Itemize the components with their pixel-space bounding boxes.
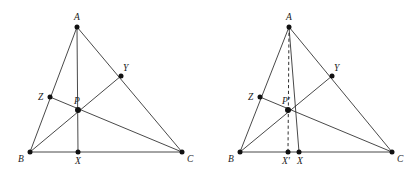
- point-label-y: Y: [123, 64, 128, 74]
- point-label-y: Y: [334, 64, 339, 74]
- point-dot-y: [119, 74, 124, 79]
- point-label-a: A: [286, 13, 292, 23]
- point-label-b: B: [228, 155, 234, 165]
- point-dot-b: [28, 150, 33, 155]
- point-label-a: A: [74, 13, 80, 23]
- point-label-p: P': [282, 97, 290, 107]
- point-label-x: X: [297, 157, 303, 167]
- point-dot-y: [330, 74, 335, 79]
- point-dot-c: [390, 150, 395, 155]
- side-AB: [240, 27, 289, 152]
- side-AC: [289, 27, 392, 152]
- point-dot-p: [285, 107, 291, 113]
- point-dot-xp: [286, 150, 291, 155]
- point-label-xp: X': [282, 157, 290, 167]
- point-dot-z: [258, 95, 263, 100]
- point-label-z: Z: [248, 93, 253, 103]
- point-label-x: X: [75, 157, 81, 167]
- point-label-c: C: [187, 155, 193, 165]
- cevian-BY: [240, 76, 332, 152]
- cevian-CZ: [260, 97, 392, 152]
- side-AB: [30, 27, 77, 152]
- point-label-p: P: [74, 97, 80, 107]
- cevian-AX: [289, 27, 299, 152]
- point-label-c: C: [397, 155, 403, 165]
- triangle-abc-with-perturbed-cevian: [238, 25, 395, 155]
- cevian-BY: [30, 76, 121, 152]
- point-dot-x: [76, 150, 81, 155]
- point-dot-x: [297, 150, 302, 155]
- point-dot-a: [75, 25, 80, 30]
- point-dot-a: [287, 25, 292, 30]
- diagram-canvas: ABCXYZPABCXX'YZP': [0, 0, 419, 175]
- point-dot-p: [75, 107, 81, 113]
- point-label-z: Z: [38, 93, 43, 103]
- cevian-AX: [77, 27, 78, 152]
- point-label-b: B: [18, 155, 24, 165]
- side-AC: [77, 27, 182, 152]
- point-dot-c: [180, 150, 185, 155]
- cevian-CZ: [50, 97, 182, 152]
- triangle-abc-with-concurrent-cevians: [28, 25, 185, 155]
- point-dot-z: [48, 95, 53, 100]
- point-dot-b: [238, 150, 243, 155]
- dashed-cevian-AXprime: [288, 27, 289, 152]
- geometry-figures-svg: [0, 0, 419, 175]
